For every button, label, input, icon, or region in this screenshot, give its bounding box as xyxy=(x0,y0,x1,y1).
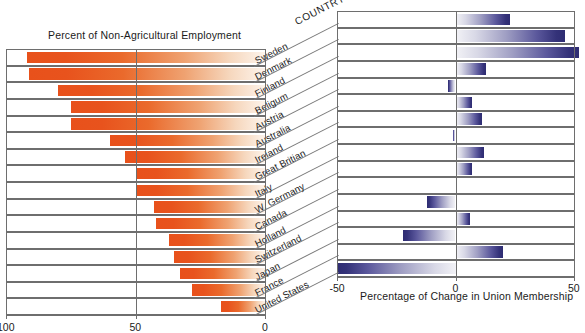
employment-bar xyxy=(27,52,265,63)
employment-tick-100 xyxy=(6,315,7,319)
union-change-bar xyxy=(456,113,482,124)
employment-tick-0 xyxy=(265,315,266,319)
employment-tick-label-50: 50 xyxy=(130,321,142,333)
union-tick-label-50: 50 xyxy=(568,282,580,294)
employment-bar xyxy=(110,135,265,146)
employment-midline xyxy=(136,49,137,317)
union-tick-50 xyxy=(574,277,575,281)
union-change-bar xyxy=(456,47,579,58)
union-left-border xyxy=(337,11,338,277)
union-change-bar xyxy=(427,196,455,207)
employment-bar xyxy=(136,168,266,179)
union-change-bar xyxy=(456,213,470,224)
union-zero-axis xyxy=(456,11,457,279)
union-change-bar xyxy=(456,147,484,158)
union-change-bar xyxy=(456,163,473,174)
employment-bar xyxy=(136,185,266,196)
employment-bar xyxy=(29,68,265,79)
employment-bar xyxy=(156,218,265,229)
union-change-bar xyxy=(403,230,455,241)
employment-bar xyxy=(125,151,265,162)
employment-zero-axis xyxy=(265,49,266,315)
union-change-bar xyxy=(456,14,511,25)
union-tick-label-0: 0 xyxy=(453,282,459,294)
employment-bar xyxy=(71,101,265,112)
union-membership-figure: Percent of Non-Agricultural Employment P… xyxy=(0,0,585,333)
union-tick-0 xyxy=(456,277,457,281)
employment-left-border xyxy=(6,49,7,315)
left-chart-title: Percent of Non-Agricultural Employment xyxy=(48,29,241,41)
union-right-border xyxy=(574,11,575,277)
union-tick-label--50: -50 xyxy=(330,282,345,294)
union-change-bar xyxy=(448,80,455,91)
union-change-bar xyxy=(456,63,487,74)
employment-tick-label-0: 0 xyxy=(262,321,268,333)
union-change-bar xyxy=(456,30,565,41)
employment-bar xyxy=(169,234,265,245)
employment-bar xyxy=(58,85,265,96)
employment-bar xyxy=(71,118,265,129)
employment-tick-label-100: 100 xyxy=(0,321,15,333)
employment-bar xyxy=(154,201,265,212)
union-tick--50 xyxy=(337,277,338,281)
union-change-bar xyxy=(456,97,473,108)
country-axis: COUNTRY SwedenDenmarkFinlandBeligumAustr… xyxy=(252,0,362,333)
union-change-bar xyxy=(456,246,503,257)
employment-tick-50 xyxy=(136,315,137,319)
right-chart-title: Percentage of Change in Union Membership xyxy=(360,290,573,302)
